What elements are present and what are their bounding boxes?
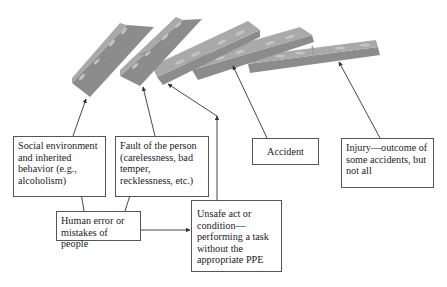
arrow-accident-to-domino [233,66,267,138]
injury-box: Injury—outcome of some accidents, but no… [341,138,434,188]
arrow-social-to-domino [73,99,86,136]
accident-box: Accident [252,138,319,165]
accident-text: Accident [267,146,304,158]
unsafe-act-box: Unsafe act or condition—performing a tas… [191,200,282,272]
arrow-fault-to-domino [143,87,155,136]
arrow-injury-to-domino [339,62,380,138]
social-environment-box: Social environment and inherited behavio… [13,136,106,197]
domino-diagram: Social environment and inherited behavio… [0,0,447,287]
fault-of-person-box: Fault of the person (carelessness, bad t… [115,136,209,197]
arrow-unsafe-to-domino [168,84,217,116]
unsafe-act-text: Unsafe act or condition—performing a tas… [197,208,269,265]
injury-text: Injury—outcome of some accidents, but no… [346,142,427,176]
fault-of-person-text: Fault of the person (carelessness, bad t… [120,140,197,186]
social-environment-text: Social environment and inherited behavio… [18,140,98,186]
human-error-box: Human error or mistakes of people [56,211,141,241]
